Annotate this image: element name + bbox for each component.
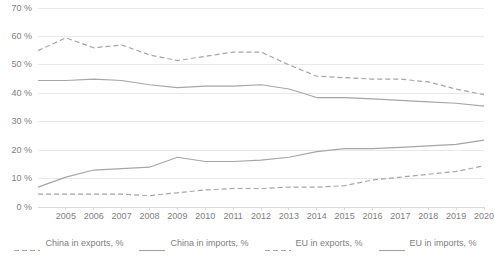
legend-solid-line-icon — [379, 240, 405, 247]
plot-svg — [38, 8, 484, 207]
series-line — [38, 38, 484, 95]
x-axis-tick-label: 2005 — [56, 211, 76, 221]
x-axis-tick-label: 2010 — [195, 211, 215, 221]
x-axis-tick-label: 2013 — [279, 211, 299, 221]
x-axis-tick-label: 2011 — [223, 211, 242, 221]
x-axis-tick-label: 2017 — [390, 211, 410, 221]
x-axis-tick-label: 2015 — [335, 211, 355, 221]
x-axis-tick-label: 2012 — [251, 211, 271, 221]
legend-label: EU in exports, % — [296, 238, 363, 248]
y-axis-tick-label: 50 % — [0, 60, 32, 69]
y-axis-tick-label: 30 % — [0, 117, 32, 126]
plot-area — [38, 8, 484, 207]
x-axis-tick-label: 2014 — [307, 211, 327, 221]
legend-item[interactable]: China in exports, % — [14, 238, 123, 248]
x-axis-tick-label: 2019 — [446, 211, 466, 221]
x-axis-tick-label: 2018 — [418, 211, 438, 221]
legend-item[interactable]: EU in imports, % — [379, 238, 477, 248]
y-axis-tick-label: 40 % — [0, 89, 32, 98]
x-axis-tick-label: 2020 — [474, 211, 494, 221]
x-axis-tick-label: 2009 — [167, 211, 187, 221]
chart-legend: China in exports, %China in imports, %EU… — [0, 232, 491, 254]
legend-label: China in imports, % — [170, 238, 248, 248]
y-axis-tick-label: 0 % — [0, 203, 32, 212]
series-line — [38, 166, 484, 196]
series-line — [38, 79, 484, 106]
legend-dashed-line-icon — [265, 240, 291, 247]
legend-item[interactable]: EU in exports, % — [265, 238, 363, 248]
x-axis-tick-label: 2016 — [362, 211, 382, 221]
x-axis-tick-label: 2007 — [112, 211, 132, 221]
legend-item[interactable]: China in imports, % — [139, 238, 248, 248]
legend-label: EU in imports, % — [410, 238, 477, 248]
y-axis-tick-label: 70 % — [0, 4, 32, 13]
legend-label: China in exports, % — [45, 238, 123, 248]
legend-dashed-line-icon — [14, 240, 40, 247]
x-axis: 2005200620072008200920102011201220132014… — [38, 211, 484, 225]
y-axis-tick-label: 60 % — [0, 32, 32, 41]
y-axis-tick-label: 10 % — [0, 174, 32, 183]
y-axis-tick-label: 20 % — [0, 146, 32, 155]
x-axis-tick-label: 2008 — [139, 211, 159, 221]
legend-solid-line-icon — [139, 240, 165, 247]
y-axis: 0 %10 %20 %30 %40 %50 %60 %70 % — [0, 0, 36, 215]
x-axis-tick-label: 2006 — [84, 211, 104, 221]
series-line — [38, 140, 484, 187]
